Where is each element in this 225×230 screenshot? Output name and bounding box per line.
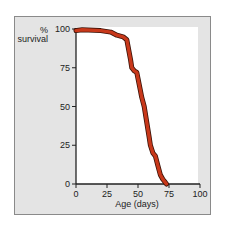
plot-area	[76, 27, 198, 184]
y-tick-label: 50	[60, 102, 70, 112]
x-tick-label: 100	[192, 189, 207, 199]
x-tick-label: 50	[133, 189, 143, 199]
x-tick-label: 0	[73, 189, 78, 199]
x-axis-label: Age (days)	[115, 199, 159, 209]
y-axis-label: % survival	[17, 25, 48, 44]
y-tick-label: 100	[55, 24, 70, 34]
x-tick-label: 75	[164, 189, 174, 199]
x-tick-label: 25	[102, 189, 112, 199]
y-tick-label: 0	[65, 179, 70, 189]
survival-chart: % survival 02550751000255075100 Age (day…	[0, 0, 225, 230]
svg-text:survival: survival	[17, 34, 48, 44]
y-tick-label: 25	[60, 140, 70, 150]
y-tick-label: 75	[60, 63, 70, 73]
